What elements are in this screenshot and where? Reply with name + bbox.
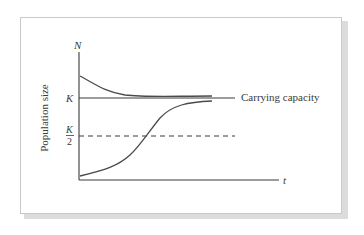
curve-logistic-growth [80, 101, 212, 176]
logistic-growth-chart: N t Population size K K 2 Carrying capac… [0, 0, 364, 235]
half-k-numerator: K [65, 124, 74, 135]
y-axis-title: Population size [38, 84, 50, 152]
curve-above-k [80, 76, 212, 96]
k-tick-label: K [65, 93, 74, 104]
carrying-capacity-label: Carrying capacity [241, 91, 320, 103]
y-axis-symbol: N [73, 39, 82, 51]
x-axis-symbol: t [283, 174, 287, 186]
half-k-denominator: 2 [67, 136, 72, 147]
